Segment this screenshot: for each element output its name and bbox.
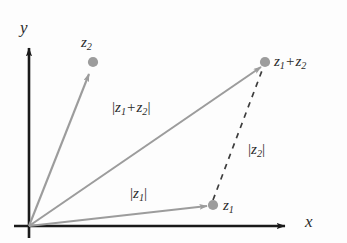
magnitude-sum-label: |z1+z2|	[112, 99, 150, 115]
z1-subscript: 1	[229, 204, 234, 215]
point-sum-dot	[260, 57, 270, 67]
mag-sum-plus-operator: +	[126, 99, 136, 115]
magnitude-z1-label: |z1|	[130, 185, 147, 201]
z1-vector	[29, 206, 207, 226]
point-z2-dot	[88, 57, 98, 67]
x-axis-label: x	[305, 213, 313, 230]
diagram-canvas	[0, 0, 347, 243]
point-z1-dot	[208, 200, 218, 210]
mag-z2-bar-right: |	[262, 140, 265, 157]
complex-plane-figure: y x z2 z1 z1+z2 |z1+z2| |z2| |z1|	[0, 0, 347, 243]
mag-z1-bar-right: |	[144, 184, 147, 201]
point-sum-label: z1+z2	[274, 54, 306, 69]
magnitude-z2-label: |z2|	[248, 141, 265, 157]
y-axis-label: y	[20, 19, 28, 36]
point-z1-label: z1	[223, 198, 234, 213]
sum-subscript-2: 2	[301, 60, 306, 71]
z2-vector	[29, 74, 89, 226]
sum-plus-operator: +	[285, 53, 295, 69]
z2-subscript: 2	[87, 41, 92, 52]
point-z2-label: z2	[81, 35, 92, 50]
mag-sum-bar-right: |	[147, 98, 150, 115]
dashed-z2-translate	[213, 68, 263, 200]
